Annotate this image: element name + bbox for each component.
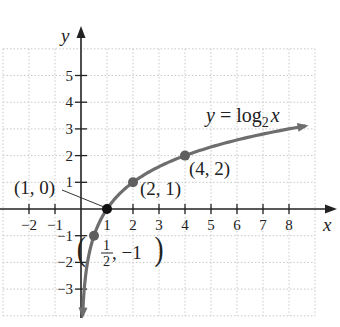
x-tick-label: 2	[129, 217, 137, 233]
x-tick-label: 1	[103, 217, 111, 233]
y-tick-label: 4	[66, 94, 74, 110]
x-tick-label: 6	[233, 217, 241, 233]
y-axis	[77, 26, 86, 318]
curve-arrow-down-icon	[79, 307, 88, 318]
leader-line-1-0	[62, 190, 104, 207]
function-label: y = log2x	[204, 104, 280, 130]
x-tick-label: −2	[21, 217, 37, 233]
y-tick-label: −2	[57, 254, 73, 270]
x-axis-arrow-icon	[325, 205, 337, 214]
x-tick-label: 4	[181, 217, 189, 233]
svg-text:(: (	[77, 230, 86, 268]
y-axis-label: y	[59, 25, 70, 46]
curve-arrow-right-icon	[297, 123, 309, 132]
y-axis-arrow-icon	[77, 26, 86, 38]
y-tick-label: 1	[66, 174, 74, 190]
svg-text:, −1: , −1	[112, 242, 142, 263]
x-tick-label: 5	[207, 217, 215, 233]
x-axis	[0, 205, 337, 214]
data-point	[128, 177, 138, 187]
label-point-1-0: (1, 0)	[14, 177, 55, 199]
label-point-2-1: (2, 1)	[140, 178, 181, 200]
x-tick-label: 7	[259, 217, 267, 233]
svg-text:1: 1	[103, 238, 110, 253]
svg-text:): )	[154, 230, 163, 268]
y-tick-label: 2	[66, 148, 74, 164]
log-curve	[83, 126, 305, 314]
log-graph: −2−112345678 −3−2−112345 x y (1, 0) (2, …	[0, 0, 340, 327]
y-tick-label: 3	[66, 121, 74, 137]
data-point	[102, 204, 112, 214]
label-point-4-2: (4, 2)	[189, 158, 230, 180]
y-tick-label: −1	[57, 228, 73, 244]
x-tick-label: 8	[285, 217, 293, 233]
svg-text:2: 2	[103, 254, 110, 269]
svg-text:y = log2x: y = log2x	[204, 104, 280, 130]
x-axis-label: x	[322, 214, 332, 235]
y-tick-label: 5	[66, 68, 74, 84]
data-point	[89, 231, 99, 241]
y-tick-label: −3	[57, 281, 73, 297]
